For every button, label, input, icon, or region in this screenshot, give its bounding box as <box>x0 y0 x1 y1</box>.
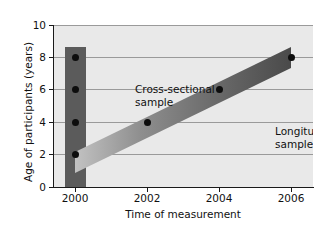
x-axis-title: Time of measurement <box>53 208 313 220</box>
gridline-8 <box>53 57 313 58</box>
x-tick-label-2006: 2006 <box>268 192 314 204</box>
cross-sectional-band <box>65 47 86 187</box>
longitudinal-label: Longitudinal sample <box>275 125 313 150</box>
plot-area: Cross-sectional sample Longitudinal samp… <box>53 25 313 187</box>
x-axis-line <box>53 187 314 188</box>
x-tick-label-2000: 2000 <box>52 192 98 204</box>
y-axis-line <box>53 25 54 188</box>
cross-sectional-label: Cross-sectional sample <box>135 83 215 108</box>
data-point <box>72 119 79 126</box>
x-tick-label-2004: 2004 <box>196 192 242 204</box>
gridline-2 <box>53 154 313 155</box>
data-point <box>216 86 223 93</box>
gridline-4 <box>53 122 313 123</box>
y-tick-mark-10 <box>49 25 53 26</box>
y-tick-mark-0 <box>49 187 53 188</box>
data-point <box>288 54 295 61</box>
gridline-10 <box>53 25 313 26</box>
chart-figure: Cross-sectional sample Longitudinal samp… <box>0 0 329 229</box>
data-point <box>72 151 79 158</box>
y-tick-mark-8 <box>49 57 53 58</box>
data-point <box>144 119 151 126</box>
y-tick-mark-2 <box>49 154 53 155</box>
y-axis-title: Age of participants (years) <box>22 32 34 192</box>
y-tick-label-10: 10 <box>24 19 46 31</box>
y-tick-mark-4 <box>49 122 53 123</box>
data-point <box>72 86 79 93</box>
x-tick-label-2002: 2002 <box>124 192 170 204</box>
y-tick-mark-6 <box>49 89 53 90</box>
data-point <box>72 54 79 61</box>
